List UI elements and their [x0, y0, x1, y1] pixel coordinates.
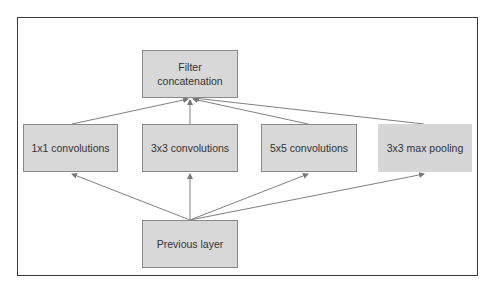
- node-3x3-max-pooling: 3x3 max pooling: [378, 124, 472, 172]
- node-label-line2: concatenation: [157, 74, 222, 88]
- edge-prev-conv1: [72, 174, 190, 220]
- edge-prev-pool: [190, 174, 424, 220]
- node-1x1-convolutions: 1x1 convolutions: [23, 124, 118, 172]
- node-label-line1: Filter: [178, 60, 201, 74]
- node-label: 1x1 convolutions: [31, 141, 109, 155]
- node-label: 3x3 convolutions: [151, 141, 229, 155]
- node-label: 3x3 max pooling: [387, 141, 463, 155]
- node-previous-layer: Previous layer: [142, 220, 238, 268]
- node-label: 5x5 convolutions: [270, 141, 348, 155]
- node-label: Previous layer: [157, 237, 224, 251]
- edge-prev-conv5: [190, 174, 308, 220]
- node-3x3-convolutions: 3x3 convolutions: [142, 124, 238, 172]
- edge-conv1-concat: [72, 99, 188, 124]
- edge-conv5-concat: [193, 99, 308, 124]
- node-filter-concatenation: Filter concatenation: [142, 50, 238, 98]
- node-5x5-convolutions: 5x5 convolutions: [261, 124, 357, 172]
- edge-pool-concat: [194, 98, 424, 124]
